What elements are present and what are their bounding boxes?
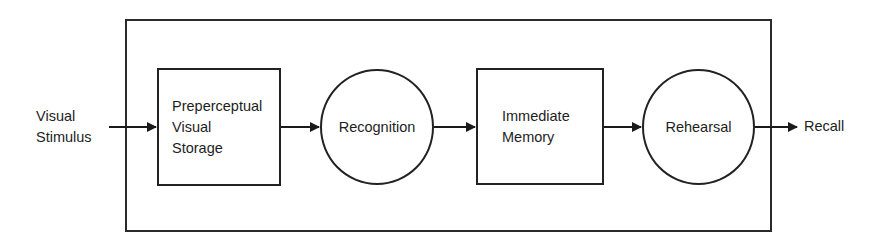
node-label: Recognition [339,117,416,138]
node-rehearsal: Rehearsal [642,69,755,185]
flow-diagram: Visual Stimulus Preperceptual Visual Sto… [0,0,882,247]
node-label: Immediate Memory [502,106,570,148]
output-label-recall: Recall [804,116,844,137]
node-immediate-memory: Immediate Memory [476,68,604,185]
node-label: Preperceptual Visual Storage [172,96,262,159]
node-recognition: Recognition [320,69,434,185]
node-preperceptual-visual-storage: Preperceptual Visual Storage [157,68,281,186]
node-label: Rehearsal [665,117,731,138]
input-label-visual-stimulus: Visual Stimulus [36,106,92,148]
